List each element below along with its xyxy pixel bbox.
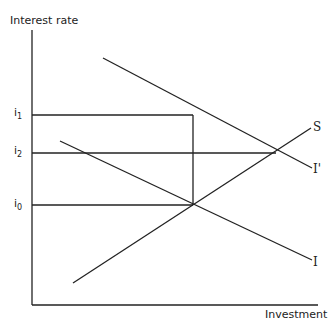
rate-label-i2: i2 xyxy=(14,145,22,159)
x-axis-label: Investment xyxy=(265,309,327,320)
rate-label-i1: i1 xyxy=(14,107,22,121)
y-axis-label: Interest rate xyxy=(10,15,78,26)
curve-label-i-prime: I' xyxy=(313,163,321,175)
curve-i xyxy=(60,141,312,260)
curve-i-prime xyxy=(103,58,312,168)
curve-label-s: S xyxy=(313,121,321,133)
diagram-canvas xyxy=(0,0,334,330)
curve-label-i: I xyxy=(313,256,318,268)
rate-label-i0: i0 xyxy=(14,198,22,212)
